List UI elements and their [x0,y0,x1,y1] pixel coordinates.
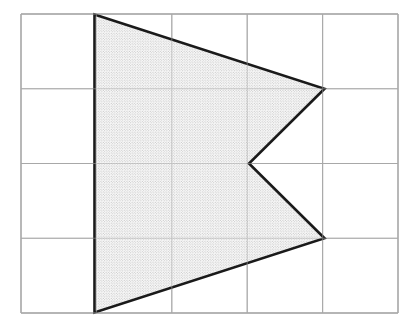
figure-root [0,0,418,326]
geometry-figure [0,0,418,326]
